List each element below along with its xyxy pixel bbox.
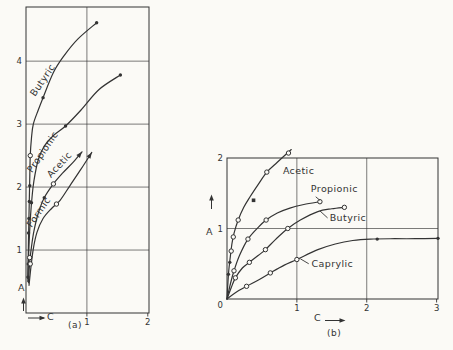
data-point-open [232, 269, 236, 273]
chart-b: 123120AceticPropionicButyricCaprylic [209, 150, 439, 323]
chart-a-caption: (a) [68, 320, 82, 330]
data-point-square [252, 199, 256, 203]
y-tick-label: 1 [17, 245, 22, 255]
x-tick-label: 2 [364, 303, 369, 313]
data-point-open [51, 182, 55, 186]
data-point-open [244, 284, 248, 288]
data-point-open [229, 249, 233, 253]
data-point-open [264, 218, 268, 222]
chart-a-y-axis-label: A [18, 282, 25, 293]
data-point-open [295, 257, 299, 261]
y-tick-label: 2 [17, 182, 22, 192]
origin-label: 0 [218, 300, 223, 310]
data-point-open [265, 170, 269, 174]
y-tick-label: 4 [17, 56, 22, 66]
series-label-butyric: Butyric [330, 212, 366, 223]
data-point-open [342, 205, 346, 209]
x-tick-label: 3 [434, 303, 439, 313]
data-point-open [28, 262, 32, 266]
data-point-filled [95, 21, 98, 24]
data-point-open [247, 260, 251, 264]
data-point-open [233, 276, 237, 280]
chart-a: 121234ButyricPropionicAceticFormic [17, 7, 151, 327]
series-label-butyric: Butyric [28, 62, 58, 98]
data-point-open [27, 255, 31, 259]
curve-propionic [28, 75, 121, 282]
y-tick-label: 3 [17, 119, 22, 129]
data-point-filled [28, 184, 31, 187]
curve-caprylic [227, 238, 438, 299]
data-point-filled [64, 124, 67, 127]
figure-adsorption-isotherms: 121234ButyricPropionicAceticFormic123120… [0, 0, 453, 350]
label-leader [300, 259, 308, 264]
chart-a-x-axis-label: C [47, 311, 54, 322]
chart-b-y-axis-label: A [206, 226, 213, 237]
data-point-open [246, 237, 250, 241]
data-point-open [268, 271, 272, 275]
y-tick-label: 1 [218, 224, 223, 234]
series-label-propionic: Propionic [311, 183, 358, 194]
data-point-filled [436, 237, 439, 240]
data-point-open [286, 226, 290, 230]
y-tick-label: 2 [218, 153, 223, 163]
data-point-open [286, 151, 290, 155]
series-label-acetic: Acetic [44, 149, 73, 179]
data-point-open [236, 218, 240, 222]
plots-canvas: 121234ButyricPropionicAceticFormic123120… [0, 0, 453, 350]
data-point-filled [41, 96, 44, 99]
series-label-caprylic: Caprylic [312, 258, 354, 269]
data-point-filled [376, 237, 379, 240]
data-point-filled [227, 273, 230, 276]
x-tick-label: 2 [145, 317, 150, 327]
x-tick-label: 1 [294, 303, 299, 313]
label-leader [316, 197, 320, 201]
series-label-acetic: Acetic [283, 165, 314, 176]
label-leader [320, 211, 328, 218]
x-tick-label: 1 [84, 317, 89, 327]
data-point-filled [30, 201, 33, 204]
data-point-open [263, 247, 267, 251]
chart-b-x-axis-label: C [314, 312, 321, 323]
data-point-open [54, 202, 58, 206]
data-point-filled [119, 73, 122, 76]
data-point-open [231, 235, 235, 239]
chart-b-caption: (b) [327, 328, 341, 338]
data-point-filled [228, 261, 231, 264]
